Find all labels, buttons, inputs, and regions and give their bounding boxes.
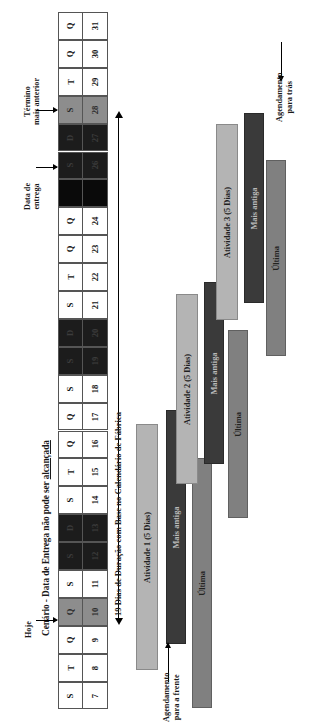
calendar-day-number: 28 bbox=[83, 97, 107, 123]
calendar-day-of-week bbox=[59, 180, 83, 206]
calendar-day-number-text: 25 bbox=[90, 189, 100, 198]
calendar-day-number-text: 18 bbox=[90, 384, 100, 393]
activity-bar-atividade1-ultima: Última bbox=[192, 458, 212, 708]
calendar-day-of-week-text: S bbox=[66, 358, 76, 363]
calendar-day-number-text: 20 bbox=[90, 329, 100, 338]
calendar-day-number: 15 bbox=[83, 459, 107, 485]
calendar-day-number-text: 10 bbox=[90, 608, 100, 617]
calendar-day-of-week-text: T bbox=[66, 665, 76, 671]
calendar-day-of-week-text: S bbox=[66, 386, 76, 391]
earliest-finish-label: Término mais anterior bbox=[24, 78, 41, 125]
due-date-pointer bbox=[36, 167, 57, 168]
calendar-day-number-text: 22 bbox=[90, 273, 100, 282]
calendar-day-cell: Q31 bbox=[58, 12, 108, 40]
today-pointer bbox=[36, 620, 57, 621]
activity-bar-atividade3-ultima: Última bbox=[266, 160, 286, 356]
calendar-day-of-week: Q bbox=[59, 13, 83, 39]
calendar-day-of-week-text: Q bbox=[66, 246, 76, 253]
calendar-day-number: 22 bbox=[83, 264, 107, 290]
calendar-day-of-week-text: Q bbox=[66, 218, 76, 225]
calendar-day-of-week-text: S bbox=[66, 498, 76, 503]
calendar-day-number: 14 bbox=[83, 487, 107, 513]
calendar-day-number-text: 11 bbox=[90, 580, 100, 588]
calendar-day-number: 23 bbox=[83, 236, 107, 262]
calendar-day-of-week: Q bbox=[59, 208, 83, 234]
earliest-finish-label-line2: mais anterior bbox=[33, 78, 42, 125]
figure-title-emphasis: alcançada bbox=[41, 440, 51, 479]
calendar-day-cell: S19 bbox=[58, 347, 108, 375]
calendar-day-cell: D20 bbox=[58, 319, 108, 347]
calendar-day-number: 21 bbox=[83, 292, 107, 318]
calendar-day-cell: Q10 bbox=[58, 598, 108, 626]
calendar-day-of-week-text: T bbox=[66, 79, 76, 85]
calendar-day-of-week: T bbox=[59, 264, 83, 290]
calendar-day-number-text: 8 bbox=[90, 665, 100, 669]
backward-scheduling-label: Agendamento para trás bbox=[275, 73, 294, 122]
calendar-day-number: 30 bbox=[83, 41, 107, 67]
factory-calendar: Q31Q30T29S28D27S2625Q24Q23T22S21D20S19S1… bbox=[58, 12, 108, 712]
today-label: Hoje bbox=[25, 621, 34, 638]
activity-bar-label: Atividade 1 (5 Dias) bbox=[143, 512, 152, 583]
calendar-day-number-text: 24 bbox=[90, 217, 100, 226]
calendar-day-of-week: T bbox=[59, 69, 83, 95]
duration-label: 19 Dias de Duração com Base no Calendári… bbox=[114, 412, 123, 616]
calendar-day-number: 26 bbox=[83, 153, 107, 179]
calendar-day-of-week: Q bbox=[59, 627, 83, 653]
calendar-day-of-week-text: S bbox=[66, 582, 76, 587]
calendar-day-number: 18 bbox=[83, 376, 107, 402]
activity-bar-atividade3-mais: Mais antiga bbox=[244, 113, 264, 303]
calendar-day-of-week: S bbox=[59, 683, 83, 709]
calendar-day-number-text: 28 bbox=[90, 105, 100, 114]
calendar-day-number: 17 bbox=[83, 404, 107, 430]
calendar-day-of-week: S bbox=[59, 97, 83, 123]
calendar-day-of-week-text: D bbox=[66, 134, 76, 140]
calendar-day-number: 27 bbox=[83, 125, 107, 151]
calendar-day-cell: D27 bbox=[58, 124, 108, 152]
calendar-day-number: 13 bbox=[83, 515, 107, 541]
activity-bar-label: Mais antiga bbox=[210, 352, 219, 394]
calendar-day-cell: 25 bbox=[58, 179, 108, 207]
calendar-day-cell: S26 bbox=[58, 152, 108, 180]
calendar-day-cell: S12 bbox=[58, 542, 108, 570]
activity-bar-label: Última bbox=[234, 412, 243, 437]
calendar-day-of-week-text: Q bbox=[66, 636, 76, 643]
activity-bar-label: Mais antiga bbox=[172, 506, 181, 548]
backward-scheduling-label-line2: para trás bbox=[285, 73, 295, 122]
backward-scheduling-label-line1: Agendamento bbox=[275, 73, 285, 122]
calendar-day-cell: S14 bbox=[58, 486, 108, 514]
earliest-finish-pointer bbox=[36, 110, 57, 111]
calendar-day-cell: Q30 bbox=[58, 40, 108, 68]
calendar-day-of-week: T bbox=[59, 459, 83, 485]
calendar-day-of-week: Q bbox=[59, 404, 83, 430]
calendar-day-cell: Q24 bbox=[58, 207, 108, 235]
calendar-day-number-text: 13 bbox=[90, 524, 100, 533]
calendar-day-number: 7 bbox=[83, 683, 107, 709]
calendar-day-of-week: Q bbox=[59, 236, 83, 262]
forward-scheduling-label: Agendamento para a frente bbox=[162, 673, 181, 722]
calendar-day-number: 29 bbox=[83, 69, 107, 95]
activity-bar-label: Atividade 3 (5 Dias) bbox=[223, 187, 232, 258]
calendar-day-of-week: S bbox=[59, 292, 83, 318]
figure-title-text: Cenário - Data de Entrega não pode ser bbox=[41, 479, 51, 636]
today-label-text: Hoje bbox=[24, 621, 33, 638]
calendar-day-number-text: 14 bbox=[90, 496, 100, 505]
calendar-day-of-week-text: S bbox=[66, 554, 76, 559]
calendar-day-of-week-text: S bbox=[66, 163, 76, 168]
calendar-day-of-week-text: Q bbox=[66, 608, 76, 615]
calendar-day-of-week-text: S bbox=[66, 693, 76, 698]
calendar-day-number-text: 26 bbox=[90, 161, 100, 170]
calendar-day-cell: T8 bbox=[58, 654, 108, 682]
calendar-day-number: 12 bbox=[83, 543, 107, 569]
calendar-day-of-week-text: T bbox=[66, 469, 76, 475]
calendar-day-cell: Q9 bbox=[58, 626, 108, 654]
calendar-day-number-text: 12 bbox=[90, 552, 100, 561]
calendar-day-of-week: D bbox=[59, 320, 83, 346]
calendar-day-number-text: 21 bbox=[90, 301, 100, 310]
calendar-day-of-week: D bbox=[59, 515, 83, 541]
calendar-day-cell: S18 bbox=[58, 375, 108, 403]
calendar-day-cell: T15 bbox=[58, 458, 108, 486]
calendar-day-of-week-text: Q bbox=[66, 50, 76, 57]
calendar-day-cell: S28 bbox=[58, 96, 108, 124]
calendar-day-of-week: D bbox=[59, 125, 83, 151]
calendar-day-number: 31 bbox=[83, 13, 107, 39]
